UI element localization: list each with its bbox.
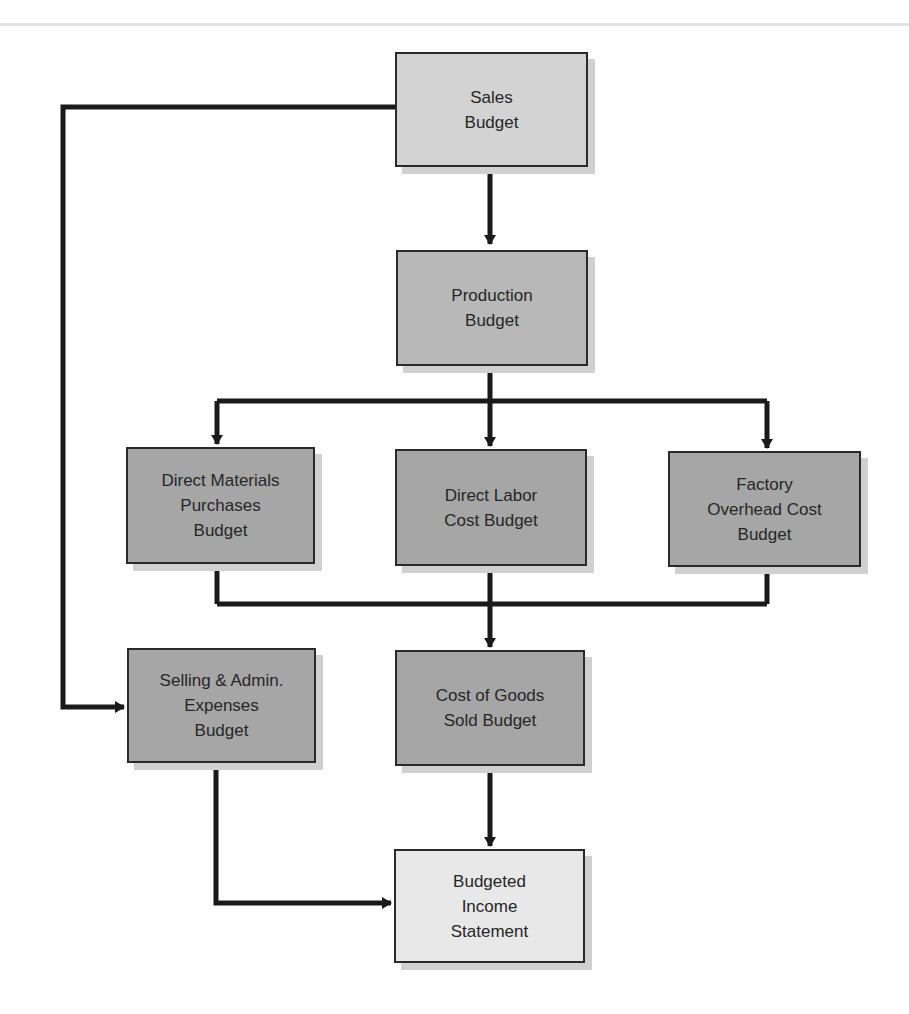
arrow-selling-to-income: [216, 762, 391, 903]
node-label: Sales Budget: [465, 85, 519, 135]
node-label: Production Budget: [451, 283, 532, 333]
node-label: Cost of Goods Sold Budget: [436, 683, 545, 733]
node-label: Factory Overhead Cost Budget: [707, 472, 821, 547]
node-label: Direct Materials Purchases Budget: [161, 468, 279, 543]
node-label: Selling & Admin. Expenses Budget: [160, 668, 284, 743]
node-selling-admin-budget: Selling & Admin. Expenses Budget: [127, 648, 316, 763]
node-label: Direct Labor Cost Budget: [444, 483, 538, 533]
node-production-budget: Production Budget: [396, 250, 588, 366]
node-sales-budget: Sales Budget: [395, 52, 588, 167]
node-cogs-budget: Cost of Goods Sold Budget: [395, 650, 585, 766]
arrow-sales-to-selling-admin: [63, 107, 395, 707]
node-factory-overhead-budget: Factory Overhead Cost Budget: [668, 451, 861, 567]
node-budgeted-income-statement: Budgeted Income Statement: [394, 849, 585, 963]
node-direct-labor-budget: Direct Labor Cost Budget: [395, 449, 587, 566]
node-label: Budgeted Income Statement: [451, 869, 529, 944]
node-direct-materials-budget: Direct Materials Purchases Budget: [126, 447, 315, 564]
